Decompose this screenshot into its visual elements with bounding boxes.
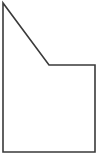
shape-figure	[0, 0, 99, 158]
drawing-canvas	[0, 0, 99, 158]
